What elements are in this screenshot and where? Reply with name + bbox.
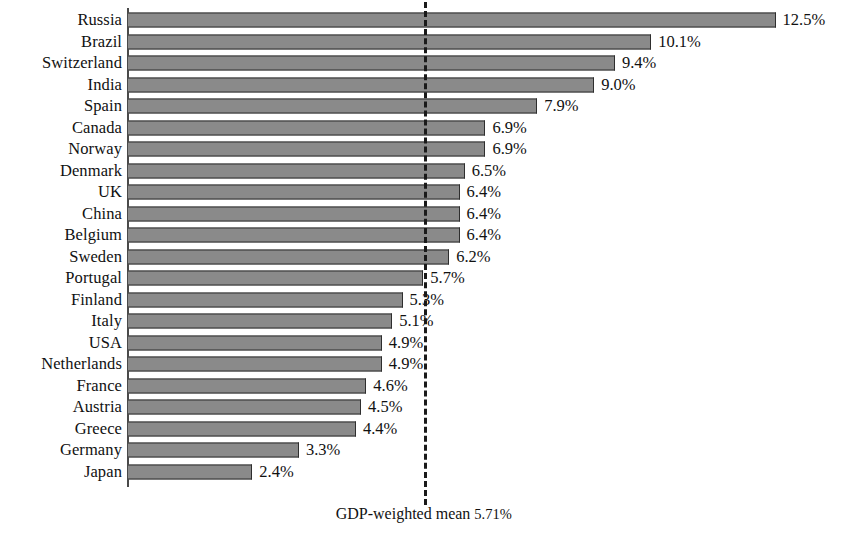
category-label: India [88,77,122,94]
category-label: Brazil [81,34,122,51]
bar-value-label: 5.1% [399,313,433,330]
bar [128,206,460,221]
gdp-weighted-mean-reference-line [424,2,427,505]
bar-value-label: 6.4% [467,184,501,201]
bar-value-label: 12.5% [783,12,826,29]
bar [128,443,299,458]
bar-value-label: 4.4% [363,421,397,438]
bar [128,357,382,372]
category-label: Spain [84,98,122,115]
bar-value-label: 7.9% [544,98,578,115]
category-label: Norway [68,141,122,158]
bar [128,99,537,114]
category-label: Austria [73,399,122,416]
bar [128,13,776,28]
bar [128,421,356,436]
bar-value-label: 9.0% [601,77,635,94]
category-label: Greece [75,421,122,438]
bar [128,378,366,393]
bar-value-label: 9.4% [622,55,656,72]
bar-value-label: 3.3% [306,442,340,459]
bar [128,314,392,329]
category-label: Sweden [69,249,122,266]
bar-value-label: 6.4% [467,227,501,244]
bar [128,56,615,71]
bar [128,142,485,157]
bar [128,185,460,200]
bar-value-label: 4.6% [373,378,407,395]
bar [128,77,594,92]
bar [128,249,449,264]
bar [128,271,423,286]
bar-value-label: 6.9% [492,141,526,158]
bar-value-label: 5.7% [430,270,464,287]
category-label: Finland [71,292,122,309]
bar-value-label: 6.4% [467,206,501,223]
gdp-weighted-mean-annotation: GDP-weighted mean 5.71% [336,506,512,522]
bar-chart: Russia12.5%Brazil10.1%Switzerland9.4%Ind… [0,0,847,537]
category-label: USA [89,335,122,352]
category-label: Russia [77,12,122,29]
category-label: Italy [91,313,122,330]
mean-annotation-value: 5.71% [474,506,511,522]
bar-value-label: 2.4% [259,464,293,481]
bar-value-label: 6.9% [492,120,526,137]
plot-area: Russia12.5%Brazil10.1%Switzerland9.4%Ind… [0,0,847,537]
bar [128,34,651,49]
category-label: France [77,378,123,395]
bar-value-label: 4.9% [389,356,423,373]
bar [128,464,252,479]
bar [128,292,403,307]
category-label: Belgium [64,227,122,244]
category-label: Denmark [60,163,122,180]
bar-value-label: 6.5% [472,163,506,180]
category-label: Portugal [65,270,122,287]
bar [128,335,382,350]
bar [128,228,460,243]
bar-value-label: 10.1% [658,34,701,51]
bar-value-label: 4.9% [389,335,423,352]
category-label: Switzerland [42,55,122,72]
category-label: Netherlands [41,356,122,373]
category-label: Germany [60,442,122,459]
category-label: Canada [72,120,122,137]
bar-value-label: 6.2% [456,249,490,266]
bar [128,163,465,178]
bar-value-label: 4.5% [368,399,402,416]
category-label: China [82,206,122,223]
mean-annotation-text: GDP-weighted mean [336,505,471,522]
category-label: Japan [84,464,122,481]
bar [128,400,361,415]
category-label: UK [98,184,122,201]
bar [128,120,485,135]
